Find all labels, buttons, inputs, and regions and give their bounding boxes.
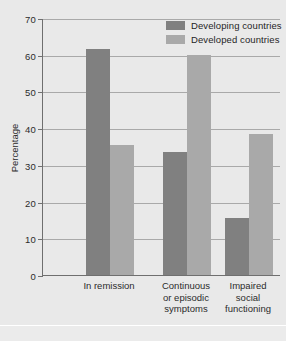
- y-axis-title-wrap: Percentage: [14, 19, 15, 276]
- legend-label-developed: Developed countries: [191, 34, 280, 45]
- y-tick-label-40: 40: [25, 124, 36, 135]
- x-axis-label-line: functioning: [203, 303, 286, 315]
- y-tick-label-10: 10: [25, 234, 36, 245]
- bar-developing-1: [163, 152, 187, 275]
- bar-chart-figure: Percentage 010203040506070 In remission …: [0, 0, 286, 341]
- bar-developed-0: [110, 145, 134, 275]
- x-axis-label-line: Impaired: [203, 280, 286, 292]
- x-axis-label-impaired-social-functioning: Impairedsocialfunctioning: [203, 280, 286, 315]
- x-axis-label-line: social: [203, 292, 286, 304]
- y-tick-label-50: 50: [25, 87, 36, 98]
- y-tick-label-70: 70: [25, 14, 36, 25]
- y-tick-label-60: 60: [25, 50, 36, 61]
- y-tick-10: [38, 239, 43, 240]
- bar-developed-1: [187, 55, 211, 275]
- legend: Developing countries Developed countries: [166, 20, 282, 45]
- y-tick-label-30: 30: [25, 160, 36, 171]
- bar-group-0: [86, 19, 134, 275]
- legend-swatch-developing-icon: [166, 21, 185, 30]
- legend-item-developing: Developing countries: [166, 20, 282, 31]
- y-tick-20: [38, 203, 43, 204]
- y-tick-40: [38, 129, 43, 130]
- y-tick-60: [38, 56, 43, 57]
- bar-developed-2: [249, 134, 273, 275]
- bar-developing-2: [225, 218, 249, 275]
- y-tick-70: [38, 19, 43, 20]
- y-axis-title: Percentage: [9, 123, 20, 172]
- legend-item-developed: Developed countries: [166, 34, 282, 45]
- y-tick-0: [38, 276, 43, 277]
- bar-group-1: [163, 19, 211, 275]
- legend-swatch-developed-icon: [166, 35, 185, 44]
- legend-label-developing: Developing countries: [191, 20, 282, 31]
- y-tick-label-0: 0: [31, 271, 36, 282]
- plot-area: 010203040506070: [42, 19, 280, 276]
- caption-strip: [0, 326, 286, 341]
- y-tick-label-20: 20: [25, 197, 36, 208]
- y-tick-50: [38, 92, 43, 93]
- bar-developing-0: [86, 49, 110, 275]
- bar-group-2: [225, 19, 273, 275]
- y-tick-30: [38, 166, 43, 167]
